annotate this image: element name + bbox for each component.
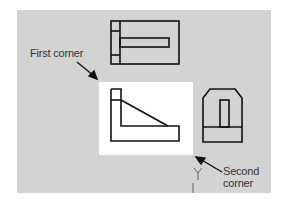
second-corner-label-line2: corner	[223, 177, 259, 189]
second-corner-arrow	[196, 157, 222, 172]
first-corner-arrow	[77, 62, 97, 79]
front-view[interactable]	[111, 89, 179, 141]
first-corner-label: First corner	[30, 47, 83, 59]
second-corner-label: Second corner	[223, 165, 259, 189]
side-view[interactable]	[203, 89, 242, 142]
second-corner-label-line1: Second	[223, 165, 259, 177]
crosshair-cursor-icon	[193, 168, 202, 193]
top-view[interactable]	[111, 21, 179, 64]
